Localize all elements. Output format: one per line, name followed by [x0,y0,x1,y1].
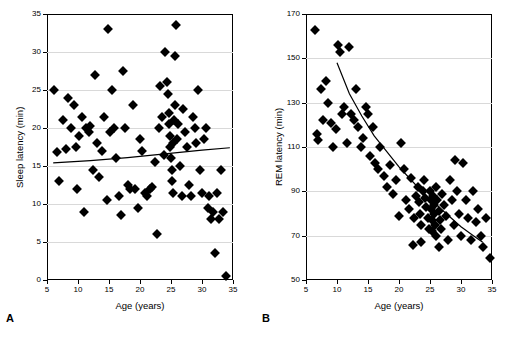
x-axis-tick [47,280,48,284]
x-axis-tick-label: 15 [364,286,373,294]
x-axis-tick-label: 20 [136,286,145,294]
x-axis-title-a: Age (years) [47,300,233,311]
x-axis-tick [337,280,338,284]
x-axis-tick-label: 5 [304,286,308,294]
x-axis-tick-label: 25 [167,286,176,294]
x-axis-tick [492,280,493,284]
y-axis-tick-label: 10 [11,200,41,208]
x-axis-tick-label: 30 [457,286,466,294]
x-axis-tick-label: 5 [45,286,49,294]
panel-letter-a: A [6,312,14,324]
y-axis-tick-label: 90 [270,187,300,195]
y-axis-tick-label: 130 [270,99,300,107]
x-axis-tick-label: 30 [198,286,207,294]
panel-b: REM latency (min) Age (years) 5070901101… [256,0,511,338]
x-axis-tick [461,280,462,284]
y-axis-tick-label: 25 [11,86,41,94]
x-axis-tick-label: 35 [488,286,497,294]
y-axis-tick-label: 170 [270,10,300,18]
x-axis-tick-label: 25 [426,286,435,294]
y-axis-tick-label: 20 [11,124,41,132]
plot-area-b: REM latency (min) Age (years) 5070901101… [306,14,492,280]
x-axis-tick [109,280,110,284]
x-axis-tick [306,280,307,284]
x-axis-tick-label: 20 [395,286,404,294]
panel-letter-b: B [262,312,270,324]
y-axis-tick-label: 150 [270,54,300,62]
plot-area-a: Sleep latency (min) Age (years) 05101520… [47,14,233,280]
x-axis-tick [399,280,400,284]
x-axis-tick [78,280,79,284]
x-axis-tick-label: 15 [105,286,114,294]
y-axis-tick-label: 35 [11,10,41,18]
x-axis-tick [202,280,203,284]
x-axis-tick [140,280,141,284]
y-axis-tick-label: 50 [270,276,300,284]
x-axis-tick [233,280,234,284]
y-axis-tick-label: 110 [270,143,300,151]
x-axis-tick [171,280,172,284]
y-axis-tick-label: 5 [11,238,41,246]
x-axis-tick [368,280,369,284]
panel-a: Sleep latency (min) Age (years) 05101520… [0,0,255,338]
x-axis-tick-label: 10 [74,286,83,294]
y-axis-tick-label: 0 [11,276,41,284]
x-axis-title-b: Age (years) [306,300,492,311]
y-axis-tick-label: 70 [270,232,300,240]
y-axis-tick-label: 15 [11,162,41,170]
y-axis-title-a: Sleep latency (min) [14,106,25,187]
figure-root: Sleep latency (min) Age (years) 05101520… [0,0,511,338]
x-axis-tick [430,280,431,284]
x-axis-tick-label: 35 [229,286,238,294]
y-axis-tick-label: 30 [11,48,41,56]
x-axis-tick-label: 10 [333,286,342,294]
